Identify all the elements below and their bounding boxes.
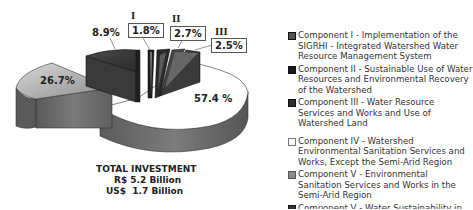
slice-label-v-sanitation: 26.7%: [40, 75, 75, 86]
total-investment-brl: R$ 5.2 Billion: [96, 175, 196, 186]
slice-tag-iii: III: [215, 27, 228, 37]
legend-item-component-ii: Component II - Sustainable Use of Water …: [288, 64, 473, 96]
legend-swatch-icon: [288, 99, 296, 107]
total-investment-title: TOTAL INVESTMENT: [96, 164, 196, 175]
slice-label-iv: 57.4 %: [194, 93, 232, 104]
legend-swatch-icon: [288, 138, 296, 146]
pie-chart: I 1.8% II 2.7% III 2.5% 8.9% 26.7% 57.4 …: [0, 0, 280, 209]
legend-item-component-iii: Component III - Water Resource Services …: [288, 97, 473, 129]
legend-item-component-v-sanitation: Component V - Environmental Sanitation S…: [288, 169, 473, 201]
legend-label: Component V - Water Sustainability in th…: [298, 203, 462, 210]
legend-item-component-v-water: Component V - Water Sustainability in th…: [288, 203, 473, 210]
legend-label: Component III - Water Resource Services …: [298, 97, 434, 128]
legend-label: Component V - Environmental Sanitation S…: [298, 169, 456, 200]
legend-label: Component I - Implementation of the SIGR…: [298, 30, 458, 61]
slice-label-ii: 2.7%: [170, 26, 206, 41]
slice-tag-ii: II: [172, 14, 180, 24]
legend-swatch-icon: [288, 205, 296, 210]
legend-swatch-icon: [288, 171, 296, 179]
legend-swatch-icon: [288, 32, 296, 40]
legend-item-component-iv: Component IV - Watershed Environmental S…: [288, 136, 473, 168]
legend-swatch-icon: [288, 66, 296, 74]
chart-legend: Component I - Implementation of the SIGR…: [288, 30, 473, 209]
legend-label: Component II - Sustainable Use of Water …: [298, 64, 472, 95]
total-investment-usd: US$ 1.7 Billion: [96, 186, 196, 197]
legend-item-component-i: Component I - Implementation of the SIGR…: [288, 30, 473, 62]
slice-tag-i: I: [131, 11, 135, 21]
slice-label-i: 1.8%: [128, 23, 164, 38]
total-investment: TOTAL INVESTMENT R$ 5.2 Billion US$ 1.7 …: [96, 164, 196, 197]
legend-label: Component IV - Watershed Environmental S…: [298, 136, 465, 167]
slice-label-iii: 2.5%: [211, 38, 247, 53]
slice-label-v-water: 8.9%: [92, 27, 120, 38]
